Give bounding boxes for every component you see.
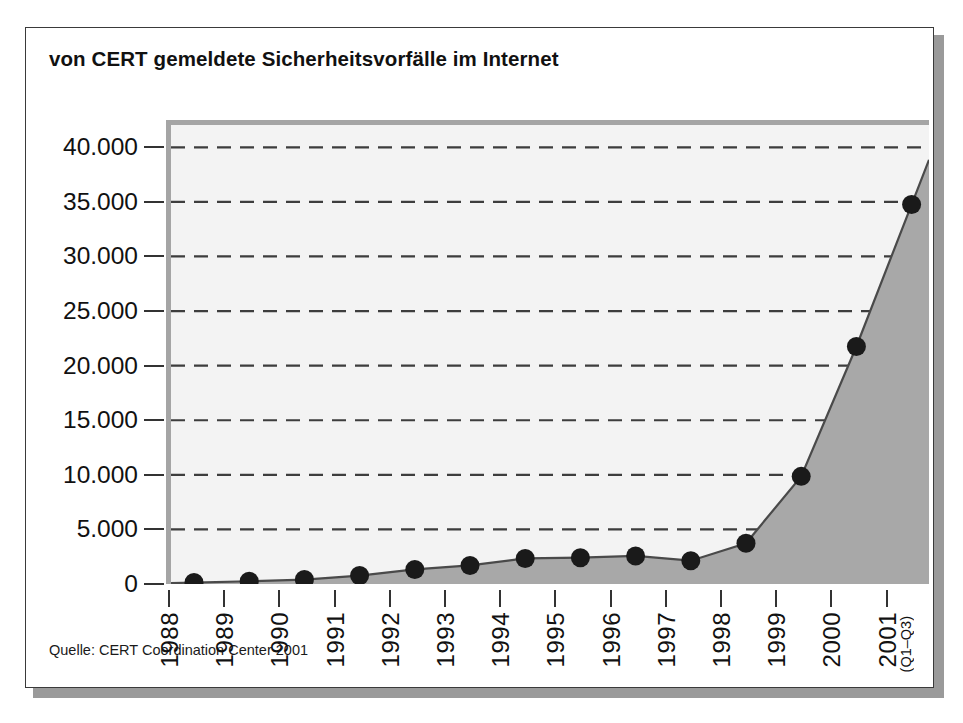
y-tick-mark (144, 583, 164, 585)
data-point-marker[interactable]: 1997: 2134 (681, 551, 700, 570)
chart-title: von CERT gemeldete Sicherheitsvorfälle i… (49, 47, 559, 71)
x-tick-mark (389, 590, 391, 607)
y-tick-label: 30.000 (63, 242, 138, 270)
y-tick-label: 15.000 (63, 406, 138, 434)
data-point-marker[interactable]: 1992: 1334 (405, 560, 424, 579)
data-point-marker[interactable]: 1989: 252 (240, 572, 259, 584)
x-tick-mark (168, 590, 170, 607)
x-tick-mark (278, 590, 280, 607)
x-tick-mark (720, 590, 722, 607)
x-tick-label: 1998 (708, 612, 736, 667)
x-tick-mark (610, 590, 612, 607)
area-chart-svg: 1988: 1321989: 2521990: 4061991: 7731992… (166, 120, 929, 584)
x-tick-label: 1996 (598, 612, 626, 667)
x-tick-label: 1988 (156, 612, 184, 667)
data-point-marker[interactable]: 1990: 406 (295, 570, 314, 584)
data-point-marker[interactable]: 1988: 132 (185, 573, 204, 584)
x-tick-mark (830, 590, 832, 607)
y-tick-mark (144, 474, 164, 476)
x-tick-mark (665, 590, 667, 607)
x-tick-sublabel: (Q1–Q3) (898, 616, 914, 672)
data-point-marker[interactable]: 2001: 34754 (902, 195, 921, 214)
data-point-marker[interactable]: 2000: 21756 (847, 337, 866, 356)
x-tick-label: 1999 (763, 612, 791, 667)
y-tick-label: 0 (124, 570, 138, 598)
y-tick-mark (144, 255, 164, 257)
x-tick-label: 2000 (818, 612, 846, 667)
data-point-marker[interactable]: 1999: 9859 (792, 467, 811, 486)
x-tick-mark (223, 590, 225, 607)
y-tick-label: 20.000 (63, 352, 138, 380)
y-tick-mark (144, 201, 164, 203)
y-tick-mark (144, 146, 164, 148)
x-tick-label: 1991 (322, 612, 350, 667)
data-point-marker[interactable]: 1995: 2412 (571, 548, 590, 567)
x-tick-label: 1995 (542, 612, 570, 667)
y-tick-mark (144, 310, 164, 312)
x-tick-mark (775, 590, 777, 607)
y-tick-mark (144, 365, 164, 367)
plot-area-wrapper: 1988: 1321989: 2521990: 4061991: 7731992… (166, 120, 929, 584)
chart-figure-frame: von CERT gemeldete Sicherheitsvorfälle i… (25, 27, 934, 688)
y-tick-label: 35.000 (63, 188, 138, 216)
x-tick-mark (554, 590, 556, 607)
data-point-marker[interactable]: 1991: 773 (350, 566, 369, 584)
x-tick-mark (499, 590, 501, 607)
x-tick-label: 1994 (487, 612, 515, 667)
area-fill (171, 160, 929, 584)
y-axis: 05.00010.00015.00020.00025.00030.00035.0… (26, 28, 166, 723)
x-tick-mark (444, 590, 446, 607)
data-point-marker[interactable]: 1998: 3734 (737, 534, 756, 553)
x-tick-label: 1997 (653, 612, 681, 667)
y-tick-label: 25.000 (63, 297, 138, 325)
x-tick-mark (886, 590, 888, 607)
y-tick-label: 10.000 (63, 461, 138, 489)
y-tick-mark (144, 419, 164, 421)
data-point-marker[interactable]: 1994: 2340 (516, 549, 535, 568)
y-tick-mark (144, 528, 164, 530)
x-tick-label: 1990 (266, 612, 294, 667)
y-tick-label: 40.000 (63, 133, 138, 161)
y-tick-label: 5.000 (77, 515, 138, 543)
x-tick-label: 1989 (211, 612, 239, 667)
data-point-marker[interactable]: 1993: 1701 (461, 556, 480, 575)
x-tick-label: 1993 (432, 612, 460, 667)
x-tick-label: 1992 (377, 612, 405, 667)
x-tick-mark (334, 590, 336, 607)
data-point-marker[interactable]: 1996: 2573 (626, 546, 645, 565)
